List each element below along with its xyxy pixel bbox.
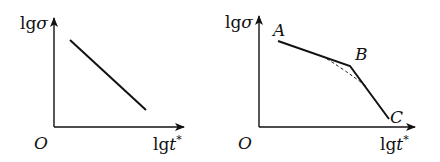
left-y-axis-label: lgσ: [20, 13, 48, 33]
figure-svg: lgσ O lgt* lgσ A B C O lgt*: [0, 0, 440, 162]
right-curve-polyline: [278, 41, 389, 119]
point-a-label: A: [271, 20, 285, 40]
right-origin-label: O: [238, 133, 252, 153]
right-x-axis-label: lgt*: [380, 133, 409, 154]
figure: lgσ O lgt* lgσ A B C O lgt*: [0, 0, 440, 162]
left-diagram: lgσ O lgt*: [20, 13, 184, 154]
right-diagram: lgσ A B C O lgt*: [225, 12, 415, 154]
left-origin-label: O: [34, 133, 48, 153]
point-c-label: C: [390, 107, 403, 127]
right-y-axis-label: lgσ: [225, 12, 253, 32]
point-b-label: B: [354, 44, 368, 64]
left-x-axis-label: lgt*: [153, 133, 182, 154]
left-curve-line: [70, 40, 146, 110]
